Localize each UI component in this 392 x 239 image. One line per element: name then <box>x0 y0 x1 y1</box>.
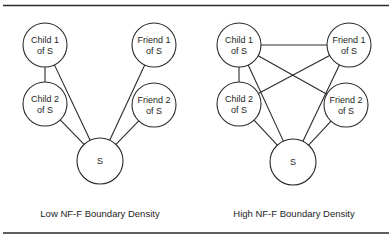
node-circle <box>23 23 67 67</box>
node-label-line1: Friend 2 <box>329 95 362 105</box>
edge-f2-s <box>309 121 331 145</box>
node-label-line1: Child 1 <box>31 35 59 45</box>
node-label: S <box>290 157 296 167</box>
node-label-line2: of S <box>231 105 247 115</box>
node-c2: Child 2of S <box>217 82 261 126</box>
node-label-line1: Friend 1 <box>137 35 170 45</box>
edge-c2-s <box>60 120 84 145</box>
node-label-line1: Friend 2 <box>137 95 170 105</box>
node-c2: Child 2of S <box>23 82 67 126</box>
node-label-line1: Child 2 <box>225 94 253 104</box>
node-circle <box>23 82 67 126</box>
node-label-line1: Friend 1 <box>332 35 365 45</box>
node-c1: Child 1of S <box>23 23 67 67</box>
node-label-line2: of S <box>146 46 162 56</box>
node-f2: Friend 2of S <box>324 83 368 127</box>
node-circle <box>327 23 371 67</box>
node-label-line2: of S <box>146 106 162 116</box>
network-density-figure: Child 1of SChild 2of SFriend 1of SFriend… <box>0 0 392 239</box>
node-label-line1: Child 2 <box>31 94 59 104</box>
node-s: S <box>270 139 316 185</box>
node-label-line2: of S <box>341 46 357 56</box>
node-s: S <box>77 138 123 184</box>
node-label-line2: of S <box>37 105 53 115</box>
node-label-line2: of S <box>37 46 53 56</box>
node-f1: Friend 1of S <box>327 23 371 67</box>
node-label-line2: of S <box>338 106 354 116</box>
edge-c2-f1 <box>258 55 329 93</box>
node-circle <box>217 82 261 126</box>
edge-f2-s <box>116 121 139 145</box>
node-label-line1: Child 1 <box>225 35 253 45</box>
node-circle <box>217 23 261 67</box>
node-f2: Friend 2of S <box>132 83 176 127</box>
node-circle <box>324 83 368 127</box>
node-circle <box>132 83 176 127</box>
panel-caption: High NF-F Boundary Density <box>233 208 355 219</box>
node-label-line2: of S <box>231 46 247 56</box>
low-density-panel: Child 1of SChild 2of SFriend 1of SFriend… <box>23 23 176 219</box>
edge-c2-s <box>254 120 277 145</box>
node-label: S <box>97 156 103 166</box>
high-density-panel: Child 1of SChild 2of SFriend 1of SFriend… <box>217 23 371 219</box>
panel-caption: Low NF-F Boundary Density <box>40 208 160 219</box>
node-c1: Child 1of S <box>217 23 261 67</box>
node-circle <box>132 23 176 67</box>
node-f1: Friend 1of S <box>132 23 176 67</box>
